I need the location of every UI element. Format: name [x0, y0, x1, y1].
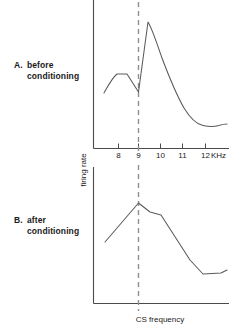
xaxis-unit-label: KHz — [211, 151, 226, 160]
neural-tuning-curve-figure: 8 9 10 11 12 KHz firing rate CS frequenc… — [0, 0, 232, 330]
panel-a-title-line1: before — [27, 60, 54, 70]
panel-b-letter: B. — [14, 215, 27, 226]
panel-a-letter: A. — [14, 60, 27, 71]
panel-b-label: B.after conditioning — [14, 215, 79, 237]
xtick-label-10: 10 — [156, 151, 165, 160]
panel-a-tuning-curve — [104, 22, 227, 127]
panel-a-title-line2: conditioning — [27, 71, 79, 82]
figure-root: 8 9 10 11 12 KHz firing rate CS frequenc… — [0, 0, 232, 330]
panel-a-plot: 8 9 10 11 12 KHz — [94, 0, 230, 160]
panel-b-plot: CS frequency — [94, 165, 230, 324]
xtick-label-8: 8 — [116, 151, 121, 160]
yaxis-label: firing rate — [79, 153, 88, 187]
xaxis-label: CS frequency — [136, 315, 184, 324]
panel-a-xticks — [119, 144, 206, 149]
xtick-label-11: 11 — [178, 151, 187, 160]
panel-a-label: A.before conditioning — [14, 60, 79, 82]
xtick-label-9: 9 — [136, 151, 141, 160]
xtick-label-12: 12 — [201, 151, 210, 160]
panel-b-title-line2: conditioning — [27, 226, 79, 237]
panel-b-tuning-curve — [105, 203, 227, 274]
panel-b-title-line1: after — [27, 215, 46, 225]
